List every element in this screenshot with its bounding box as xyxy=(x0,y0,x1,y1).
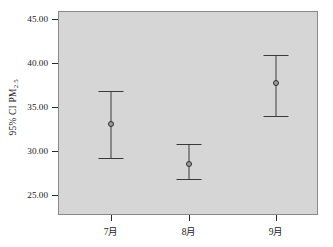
data-point-marker xyxy=(108,121,114,127)
data-point-marker xyxy=(273,80,279,86)
x-axis-tick-label: 9月 xyxy=(246,224,306,238)
errorbar-lower-cap xyxy=(177,179,202,180)
errorbar-lower-cap xyxy=(264,116,289,117)
x-axis-tick-label: 8月 xyxy=(159,224,219,238)
chart-page: 95% CI PM2.5 45.00 40.00 35.00 30.00 25.… xyxy=(0,0,333,247)
y-axis-title-prefix: 95% CI PM xyxy=(8,88,18,135)
errorbar-lower-cap xyxy=(99,158,124,159)
y-axis-tick-label: 45.00 xyxy=(2,14,48,24)
y-axis-tick-label: 30.00 xyxy=(2,146,48,156)
x-axis-tick-label: 7月 xyxy=(81,224,141,238)
x-axis-tick xyxy=(276,215,277,221)
y-axis-tick-label: 25.00 xyxy=(2,190,48,200)
y-axis-title-subscript: 2.5 xyxy=(11,79,18,88)
x-axis-tick xyxy=(111,215,112,221)
y-axis-tick-label: 40.00 xyxy=(2,58,48,68)
x-axis-tick xyxy=(189,215,190,221)
plot-area xyxy=(58,11,318,215)
y-axis-tick-label: 35.00 xyxy=(2,102,48,112)
data-point-marker xyxy=(186,161,192,167)
